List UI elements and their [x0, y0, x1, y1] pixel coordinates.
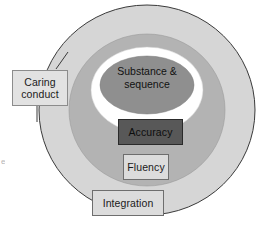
caring-conduct-line1: Caring: [24, 76, 56, 88]
accuracy-box: Accuracy: [118, 119, 183, 145]
fluency-box: Fluency: [123, 154, 169, 180]
concentric-diagram: Substance & sequence Caring conduct Accu…: [0, 0, 271, 228]
core-label: Substance & sequence: [103, 65, 191, 91]
integration-box: Integration: [92, 190, 164, 216]
core-label-line2: sequence: [124, 78, 170, 90]
integration-label: Integration: [103, 197, 154, 209]
accuracy-label: Accuracy: [129, 126, 173, 138]
fluency-label: Fluency: [127, 161, 164, 173]
scan-artifact-mark: e: [1, 157, 5, 166]
caring-conduct-box: Caring conduct: [12, 70, 68, 106]
core-label-line1: Substance &: [117, 65, 177, 77]
caring-conduct-label: Caring conduct: [21, 76, 58, 101]
caring-conduct-line2: conduct: [21, 88, 58, 100]
